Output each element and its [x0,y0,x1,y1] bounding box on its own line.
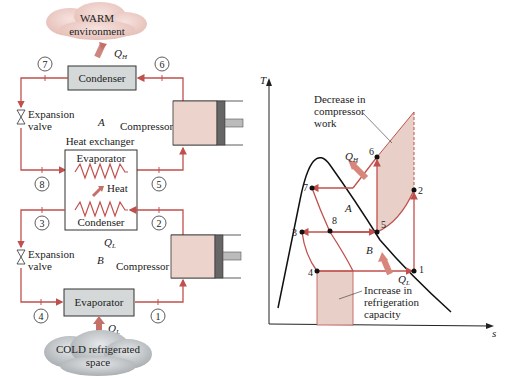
point-5: 5 [381,219,386,230]
svg-text:COLD refrigerated: COLD refrigerated [56,343,140,355]
compressor-top-label: Compressor [120,120,174,132]
region-a-ts: A [344,202,352,214]
svg-text:Heat: Heat [107,182,128,194]
svg-text:space: space [86,356,111,368]
qh-label: QH [114,47,128,61]
state-6: 6 [160,59,165,70]
annotation-refrigeration-2: refrigeration [364,296,419,308]
region-b-ts: B [366,244,373,256]
state-3: 3 [40,218,45,229]
state-4: 4 [39,311,44,322]
ts-diagram: T s 1 2 3 4 [260,74,496,339]
svg-text:Evaporator: Evaporator [77,152,126,164]
region-a-label: A [97,116,105,128]
expansion-valve-bottom: Expansion valve [17,248,75,272]
point-2: 2 [418,185,423,196]
environment-label: environment [69,25,125,37]
svg-text:Condenser: Condenser [77,216,124,228]
heat-exchanger-title: Heat exchanger [66,135,135,147]
compressor-top [173,101,243,145]
annotation-refrigeration-1: Increase in [364,284,412,296]
svg-text:valve: valve [28,120,52,132]
compressor-bottom [171,235,241,278]
region-b-label: B [97,254,104,266]
cold-space-cloud: COLD refrigerated space [44,330,152,376]
point-3: 3 [292,227,297,238]
svg-text:Expansion: Expansion [28,108,75,120]
point-7: 7 [303,182,308,193]
state-7: 7 [43,59,48,70]
point-4: 4 [308,267,313,278]
point-1: 1 [419,264,424,275]
svg-text:Expansion: Expansion [28,248,75,260]
state-2: 2 [157,218,162,229]
point-6: 6 [369,146,374,157]
svg-text:valve: valve [28,260,52,272]
expansion-valve-top: Expansion valve [17,108,75,132]
x-axis-label: s [492,327,496,339]
annotation-compressor-work-2: compressor [314,105,365,117]
svg-text:Condenser: Condenser [78,72,125,84]
ql-hx-label: QL [104,236,116,250]
compressor-work-shade [377,112,414,232]
annotation-compressor-work-3: work [314,117,337,129]
state-1: 1 [156,311,161,322]
state-5: 5 [157,179,162,190]
qh-ts-label: QH [345,150,359,164]
warm-environment-cloud: WARM environment [46,2,147,40]
refrigeration-capacity-shade [317,271,353,325]
annotation-compressor-work-1: Decrease in [314,93,366,105]
compressor-bottom-label: Compressor [116,260,170,272]
annotation-refrigeration-3: capacity [364,308,401,320]
state-8: 8 [40,179,45,190]
warm-label: WARM [80,12,114,24]
y-axis-label: T [260,74,267,86]
point-8: 8 [332,215,337,226]
svg-text:Evaporator: Evaporator [75,296,124,308]
